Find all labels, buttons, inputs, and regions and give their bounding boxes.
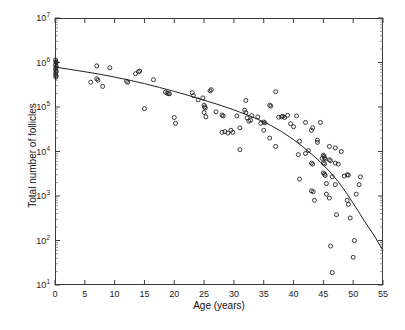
y-tick-label-1e2: 102 [24,236,50,245]
x-tick-label-10: 10 [110,290,120,299]
x-tick-label-5: 5 [82,290,87,299]
x-tick-label-40: 40 [289,290,299,299]
x-tick-label-30: 30 [229,290,239,299]
x-tick-label-55: 55 [378,290,388,299]
chart-canvas [0,0,405,330]
y-tick-label-1e7: 107 [24,14,50,23]
x-tick-label-35: 35 [259,290,269,299]
x-tick-label-45: 45 [318,290,328,299]
y-tick-label-1e6: 106 [24,58,50,67]
data-points-layer [54,58,363,275]
x-tick-label-0: 0 [52,290,57,299]
axis-ticks-layer [55,18,383,285]
x-axis-title: Age (years) [55,300,383,311]
fitted-curve-layer [55,67,383,250]
y-tick-label-1e1: 101 [24,281,50,290]
figure-container: 0510152025303540455055 10110210310410510… [0,0,405,330]
x-tick-label-25: 25 [199,290,209,299]
x-tick-label-15: 15 [139,290,149,299]
x-tick-label-50: 50 [348,290,358,299]
x-tick-label-20: 20 [169,290,179,299]
y-axis-title: Total number of follicles [27,76,38,236]
